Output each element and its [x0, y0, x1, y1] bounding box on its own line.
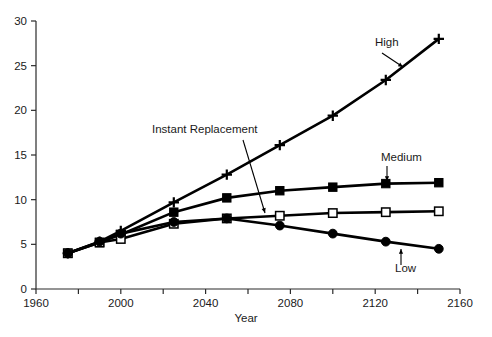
annotation-arrow-instant-replacement — [243, 140, 265, 213]
y-tick-label-10: 10 — [14, 194, 27, 206]
x-tick-label-2120: 2120 — [362, 297, 388, 309]
x-tick-label-2000: 2000 — [108, 297, 134, 309]
marker-open-square-2125 — [382, 208, 390, 216]
marker-filled-circle-1990 — [95, 237, 104, 246]
y-tick-label-5: 5 — [21, 238, 27, 250]
marker-filled-circle-1975 — [63, 249, 72, 258]
chart-canvas: 196020002040208021202160 051015202530 Hi… — [0, 0, 492, 337]
data-series-group — [63, 34, 444, 259]
marker-filled-circle-2150 — [434, 244, 443, 253]
marker-plus-2050 — [222, 169, 232, 179]
annotation-label-instant-replacement: Instant Replacement — [152, 123, 258, 135]
y-tick-label-20: 20 — [14, 104, 27, 116]
marker-open-square-2100 — [329, 209, 337, 217]
marker-filled-circle-2125 — [381, 237, 390, 246]
x-tick-label-2160: 2160 — [447, 297, 473, 309]
marker-filled-circle-2075 — [275, 221, 284, 230]
marker-filled-square-2025 — [170, 208, 178, 216]
marker-filled-circle-2100 — [328, 229, 337, 238]
annotation-label-low: Low — [395, 262, 417, 274]
marker-filled-square-2050 — [223, 194, 231, 202]
annotation-arrowhead-high — [398, 63, 403, 67]
x-tick-label-2040: 2040 — [193, 297, 219, 309]
y-tick-label-25: 25 — [14, 60, 27, 72]
marker-plus-2075 — [275, 140, 285, 150]
y-axis-tick-labels: 051015202530 — [14, 15, 27, 295]
x-tick-label-1960: 1960 — [23, 297, 49, 309]
marker-filled-square-2125 — [382, 179, 390, 187]
annotation-arrowhead-low — [399, 249, 403, 254]
marker-filled-circle-2025 — [169, 218, 178, 227]
marker-open-square-2150 — [435, 207, 443, 215]
marker-open-square-2075 — [276, 212, 284, 220]
y-tick-label-15: 15 — [14, 149, 27, 161]
chart-figure: 196020002040208021202160 051015202530 Hi… — [0, 0, 492, 337]
series-low — [63, 214, 443, 258]
series-high — [63, 34, 444, 259]
x-axis-title: Year — [234, 312, 257, 324]
annotation-label-medium: Medium — [381, 151, 422, 163]
marker-filled-circle-2000 — [116, 229, 125, 238]
marker-filled-square-2075 — [276, 187, 284, 195]
marker-filled-square-2100 — [329, 183, 337, 191]
y-tick-label-30: 30 — [14, 15, 27, 27]
x-tick-label-2080: 2080 — [278, 297, 304, 309]
annotation-arrowhead-instant-replacement — [262, 208, 266, 213]
marker-filled-circle-2050 — [222, 214, 231, 223]
series-annotations: HighMediumInstant ReplacementLow — [152, 36, 422, 274]
x-axis-tick-labels: 196020002040208021202160 — [23, 297, 473, 309]
marker-filled-square-2150 — [435, 178, 443, 186]
annotation-label-high: High — [375, 36, 399, 48]
y-tick-label-0: 0 — [21, 283, 27, 295]
marker-plus-2025 — [169, 197, 179, 207]
